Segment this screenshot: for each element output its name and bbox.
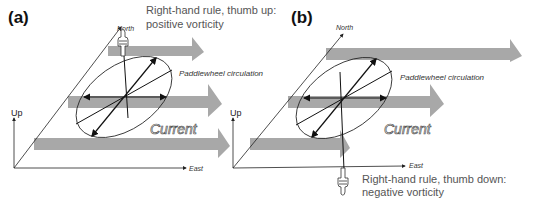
vorticity-diagram: (a) Up East North Right-hand rule, thumb… (0, 0, 534, 208)
panel-b-label: (b) (291, 8, 313, 27)
current-arrow-bottom (34, 128, 230, 158)
note-b-line1: Right-hand rule, thumb down: (362, 173, 506, 185)
current-label-a: Current (150, 121, 198, 137)
circulation-label-a: Paddlewheel circulation (179, 69, 264, 78)
note-a-line2: positive vorticity (146, 18, 224, 30)
current-arrow-middle (288, 84, 444, 117)
spoke-arrow (344, 59, 376, 98)
thumb-down-icon (338, 168, 348, 195)
axis-up-label: Up (230, 108, 242, 118)
current-arrow-bottom (250, 130, 350, 158)
axis-east-label: East (189, 165, 204, 172)
note-b-line2: negative vorticity (362, 186, 444, 198)
spoke (344, 71, 392, 98)
vertical-axle-a (124, 56, 128, 118)
axis-east-label: East (409, 162, 424, 169)
panel-a: (a) Up East North Right-hand rule, thumb… (8, 4, 276, 172)
spoke (124, 70, 172, 97)
axis-north-label: North (336, 24, 353, 31)
note-a-line1: Right-hand rule, thumb up: (146, 4, 276, 16)
axis-up-label: Up (11, 108, 23, 118)
panel-b: (b) Up East North Right-hand rule, thumb… (230, 8, 522, 198)
current-label-b: Current (384, 121, 432, 137)
current-arrow-middle (68, 84, 222, 117)
panel-a-label: (a) (8, 8, 29, 27)
spoke-arrow (124, 58, 156, 97)
circulation-label-b: Paddlewheel circulation (400, 73, 485, 82)
axis-east-b (233, 166, 405, 168)
axis-north-label: North (117, 25, 134, 32)
